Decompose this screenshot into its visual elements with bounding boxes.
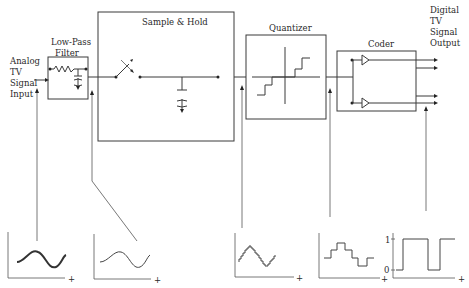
waveform-binary: + 1 0 xyxy=(384,233,465,284)
svg-text:+: + xyxy=(68,274,75,284)
pointer-lines xyxy=(35,85,428,241)
waveform-analog-noisy: + xyxy=(8,232,75,284)
block-diagram: Analog TV Signal Input Low-Pass Filter S… xyxy=(0,0,469,288)
svg-text:0: 0 xyxy=(384,265,389,275)
svg-text:Digital: Digital xyxy=(430,5,459,15)
svg-text:Signal: Signal xyxy=(430,27,458,37)
svg-text:TV: TV xyxy=(10,67,23,77)
svg-text:Coder: Coder xyxy=(368,39,395,49)
waveform-analog-filtered: + xyxy=(94,234,161,285)
waveform-quantized: + xyxy=(319,233,388,284)
low-pass-filter-block: Low-Pass Filter xyxy=(48,37,91,99)
output-label: Digital TV Signal Output xyxy=(430,5,461,48)
svg-text:Output: Output xyxy=(430,38,461,48)
svg-text:1: 1 xyxy=(385,235,390,245)
resistor-icon xyxy=(51,66,86,72)
svg-text:+: + xyxy=(381,274,388,284)
sample-and-hold-block: Sample & Hold xyxy=(98,12,234,141)
waveform-staircase: + xyxy=(235,233,303,283)
amplifier-icon xyxy=(362,55,369,65)
amplifier-icon xyxy=(362,98,369,108)
svg-text:Low-Pass: Low-Pass xyxy=(51,37,91,47)
svg-text:TV: TV xyxy=(430,16,443,26)
svg-text:Quantizer: Quantizer xyxy=(269,23,313,33)
svg-text:Input: Input xyxy=(10,89,34,99)
svg-text:+: + xyxy=(296,273,303,283)
svg-text:+: + xyxy=(458,274,465,284)
coder-block: Coder xyxy=(337,39,438,111)
quantizer-block: Quantizer xyxy=(246,23,326,119)
svg-text:Analog: Analog xyxy=(9,56,41,66)
svg-text:+: + xyxy=(154,275,161,285)
svg-text:Sample & Hold: Sample & Hold xyxy=(142,17,208,27)
svg-text:Signal: Signal xyxy=(10,78,38,88)
